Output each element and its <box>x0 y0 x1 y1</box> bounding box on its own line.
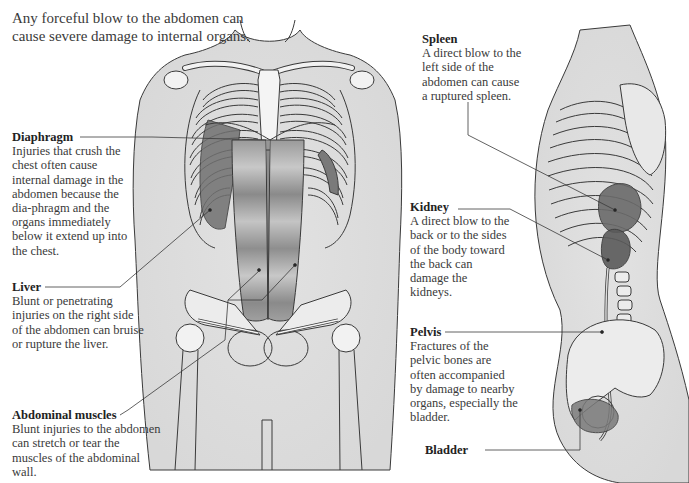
intro-text: Any forceful blow to the abdomen can cau… <box>12 9 252 45</box>
callout-body-abdominal-muscles: Blunt injuries to the abdomen can stretc… <box>12 422 162 479</box>
side-torso <box>535 25 689 483</box>
callout-title-liver: Liver <box>12 280 147 294</box>
callout-body-spleen: A direct blow to the left side of the ab… <box>422 46 527 103</box>
callout-title-diaphragm: Diaphragm <box>12 130 137 144</box>
callout-body-pelvis: Fractures of the pelvic bones are often … <box>410 339 520 424</box>
front-torso <box>133 20 402 470</box>
callout-title-spleen: Spleen <box>422 32 527 46</box>
callout-body-diaphragm: Injuries that crush the chest often caus… <box>12 144 137 258</box>
callout-bladder: Bladder <box>425 443 485 457</box>
callout-title-pelvis: Pelvis <box>410 325 520 339</box>
callout-title-bladder: Bladder <box>425 443 485 457</box>
callout-liver: Liver Blunt or penetrating injuries on t… <box>12 280 147 351</box>
callout-title-abdominal-muscles: Abdominal muscles <box>12 408 162 422</box>
callout-abdominal-muscles: Abdominal muscles Blunt injuries to the … <box>12 408 162 479</box>
callout-pelvis: Pelvis Fractures of the pelvic bones are… <box>410 325 520 424</box>
callout-kidney: Kidney A direct blow to the back or to t… <box>410 200 510 299</box>
callout-body-liver: Blunt or penetrating injuries on the rig… <box>12 294 147 351</box>
callout-spleen: Spleen A direct blow to the left side of… <box>422 32 527 103</box>
callout-body-kidney: A direct blow to the back or to the side… <box>410 214 510 299</box>
callout-diaphragm: Diaphragm Injuries that crush the chest … <box>12 130 137 258</box>
callout-title-kidney: Kidney <box>410 200 510 214</box>
